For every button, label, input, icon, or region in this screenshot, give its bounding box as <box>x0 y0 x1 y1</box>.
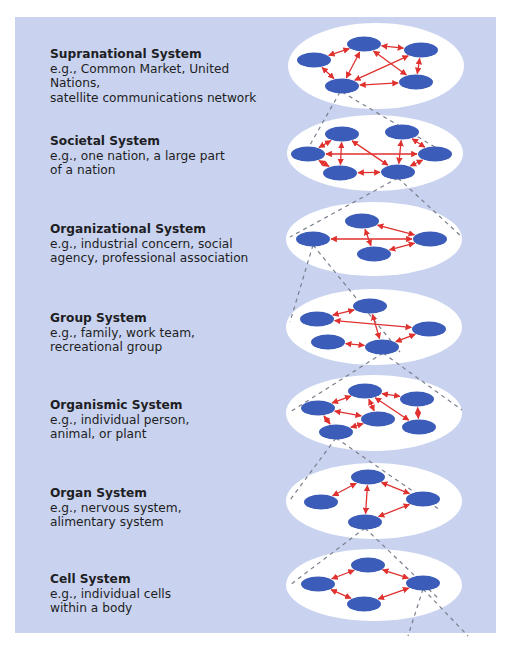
system-node <box>347 597 381 612</box>
system-node <box>291 147 325 162</box>
system-node <box>347 37 381 52</box>
system-node <box>357 247 391 262</box>
system-node <box>348 384 382 399</box>
system-node <box>385 125 419 140</box>
bidirectional-arrow <box>418 407 419 418</box>
system-node <box>351 558 385 573</box>
system-node <box>361 412 395 427</box>
system-node <box>400 392 434 407</box>
system-node <box>412 322 446 337</box>
system-node <box>402 420 436 435</box>
system-node <box>301 577 335 592</box>
system-node <box>406 492 440 507</box>
system-node <box>406 576 440 591</box>
system-node <box>348 515 382 530</box>
system-node <box>311 335 345 350</box>
system-node <box>381 165 415 180</box>
system-node <box>301 401 335 416</box>
system-node <box>365 340 399 355</box>
system-node <box>297 53 331 68</box>
system-node <box>296 232 330 247</box>
system-node <box>418 147 452 162</box>
system-node <box>351 470 385 485</box>
system-node <box>325 127 359 142</box>
system-node <box>399 75 433 90</box>
system-node <box>300 312 334 327</box>
system-node <box>323 166 357 181</box>
system-node <box>325 79 359 94</box>
systems-hierarchy-diagram <box>0 0 516 646</box>
system-node <box>413 232 447 247</box>
system-node <box>345 214 379 229</box>
system-node <box>404 43 438 58</box>
system-node <box>304 495 338 510</box>
system-node <box>319 425 353 440</box>
system-node <box>353 299 387 314</box>
